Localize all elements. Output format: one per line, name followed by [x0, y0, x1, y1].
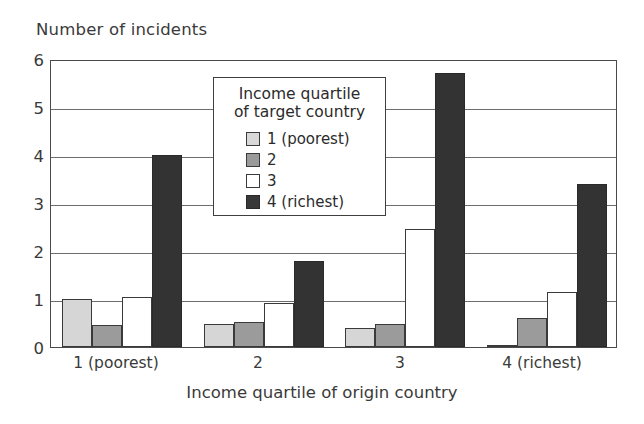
bar [345, 328, 375, 347]
y-tick-label: 4 [24, 147, 44, 166]
bar-group [487, 61, 607, 347]
legend-items: 1 (poorest) 2 3 4 (richest) [214, 129, 385, 213]
x-tick-label: 1 (poorest) [73, 354, 158, 372]
bar [92, 325, 122, 347]
bar [547, 292, 577, 347]
legend-swatch-icon [246, 132, 260, 146]
legend-title: Income quartile of target country [214, 85, 385, 122]
bar [577, 184, 607, 347]
bar [122, 297, 152, 347]
legend-title-line-1: Income quartile [220, 85, 379, 103]
legend-swatch-icon [246, 153, 260, 167]
legend-item: 2 [246, 150, 385, 171]
y-tick-label: 2 [24, 243, 44, 262]
y-tick-label: 0 [24, 339, 44, 358]
x-tick-label: 2 [253, 354, 263, 372]
y-tick-label: 3 [24, 195, 44, 214]
bar-group [62, 61, 182, 347]
legend-item-label: 2 [267, 151, 277, 169]
x-tick-label: 4 (richest) [502, 354, 582, 372]
legend-item-label: 1 (poorest) [267, 130, 350, 148]
legend-swatch-icon [246, 174, 260, 188]
legend-title-line-2: of target country [220, 103, 379, 121]
bar [435, 73, 465, 347]
bar [62, 299, 92, 347]
bar [517, 318, 547, 347]
bar [152, 155, 182, 347]
bar [234, 322, 264, 347]
legend-item-label: 3 [267, 172, 277, 190]
legend-item: 1 (poorest) [246, 129, 385, 150]
bar-chart-figure: Number of incidents 6 5 4 3 2 1 0 1 (poo… [0, 0, 644, 424]
y-tick-label: 1 [24, 291, 44, 310]
bar [487, 345, 517, 347]
y-tick-label: 5 [24, 99, 44, 118]
x-tick-label: 3 [395, 354, 405, 372]
legend-item: 3 [246, 171, 385, 192]
legend-swatch-icon [246, 195, 260, 209]
bar [264, 303, 294, 347]
legend-item: 4 (richest) [246, 192, 385, 213]
bar [405, 229, 435, 347]
legend-item-label: 4 (richest) [267, 193, 344, 211]
bar [294, 261, 324, 347]
x-axis-title: Income quartile of origin country [0, 383, 644, 402]
y-tick-label: 6 [24, 51, 44, 70]
bar [204, 324, 234, 347]
bar [375, 324, 405, 347]
chart-legend: Income quartile of target country 1 (poo… [213, 77, 386, 216]
